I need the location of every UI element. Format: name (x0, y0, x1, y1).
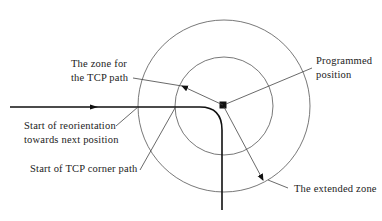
label-extended-zone: The extended zone (294, 183, 377, 194)
label-zone-tcp-path-2: the TCP path (71, 72, 129, 83)
label-start-reorientation-2: towards next position (24, 134, 119, 145)
path-direction-arrow-icon (90, 105, 98, 110)
label-start-corner-path: Start of TCP corner path (30, 163, 138, 174)
leader-programmed-position (226, 68, 312, 104)
leader-start-reorientation (116, 107, 138, 126)
outer-radius-arrow (224, 107, 263, 180)
inner-radius-arrow (182, 86, 223, 105)
label-programmed-position-1: Programmed (316, 55, 373, 66)
leader-extended-zone (268, 180, 288, 188)
label-zone-tcp-path-1: The zone for (71, 58, 127, 69)
label-programmed-position-2: position (316, 69, 352, 80)
tcp-zone-diagram: The zone for the TCP path Programmed pos… (0, 0, 382, 221)
label-start-reorientation-1: Start of reorientation (24, 120, 116, 131)
